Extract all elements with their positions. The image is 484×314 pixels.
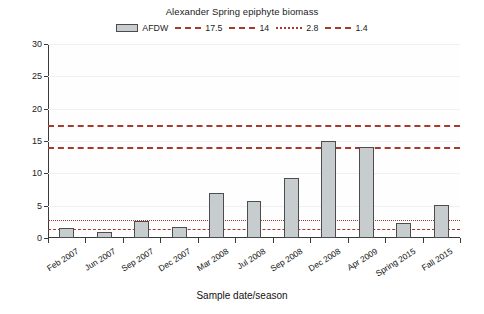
legend-line-swatch-dash-icon <box>229 27 255 29</box>
x-tick-mark <box>160 238 161 243</box>
legend-label-1-4: 1.4 <box>355 24 367 33</box>
bar <box>284 178 299 238</box>
bar <box>134 221 149 238</box>
x-tick-mark <box>273 238 274 243</box>
x-tick-mark <box>310 238 311 243</box>
x-tick-mark <box>348 238 349 243</box>
legend-line-swatch-dashdot-icon <box>175 27 201 29</box>
y-tick-mark <box>44 44 48 45</box>
x-tick-label: Dec 2007 <box>157 246 193 273</box>
legend-item-1-4[interactable]: 1.4 <box>325 24 367 33</box>
chart-figure: Alexander Spring epiphyte biomass AFDW 1… <box>0 0 484 314</box>
y-tick-label: 30 <box>1 39 42 49</box>
bar <box>359 147 374 238</box>
x-tick-label: Jul 2008 <box>235 246 267 271</box>
x-tick-label: Sep 2007 <box>119 246 155 273</box>
x-tick-label: Mar 2008 <box>195 246 230 273</box>
legend-item-14[interactable]: 14 <box>229 24 269 33</box>
legend-item-afdw[interactable]: AFDW <box>116 24 168 33</box>
y-tick-mark <box>44 206 48 207</box>
x-tick-mark <box>423 238 424 243</box>
y-tick-label: 20 <box>1 104 42 114</box>
y-tick-mark <box>44 141 48 142</box>
bar <box>59 228 74 238</box>
y-tick-label: 10 <box>1 168 42 178</box>
legend-line-swatch-dash2-icon <box>325 27 351 29</box>
y-tick-label: 0 <box>1 233 42 243</box>
x-tick-mark <box>385 238 386 243</box>
bar <box>172 227 187 238</box>
y-tick-label: 15 <box>1 136 42 146</box>
plot-area <box>48 44 460 238</box>
y-tick-label: 5 <box>1 201 42 211</box>
x-tick-label: Feb 2007 <box>45 246 80 273</box>
x-tick-mark <box>85 238 86 243</box>
x-tick-label: Spring 2015 <box>374 246 418 278</box>
x-tick-label: Fall 2015 <box>420 246 455 273</box>
legend-label-14: 14 <box>259 24 269 33</box>
bar <box>396 223 411 238</box>
x-axis-ticks <box>48 238 460 244</box>
y-tick-mark <box>44 76 48 77</box>
bar <box>209 193 224 238</box>
legend-label-afdw: AFDW <box>142 24 168 33</box>
x-tick-mark <box>48 238 49 243</box>
legend-item-2-8[interactable]: 2.8 <box>276 24 318 33</box>
x-tick-mark <box>460 238 461 243</box>
x-tick-mark <box>123 238 124 243</box>
y-tick-mark <box>44 109 48 110</box>
chart-title: Alexander Spring epiphyte biomass <box>0 6 484 17</box>
legend-item-17-5[interactable]: 17.5 <box>175 24 222 33</box>
y-tick-label: 25 <box>1 71 42 81</box>
y-tick-mark <box>44 173 48 174</box>
x-tick-label: Sep 2008 <box>269 246 305 273</box>
bar <box>321 141 336 238</box>
legend-label-17-5: 17.5 <box>205 24 222 33</box>
bar-series-afdw <box>48 44 460 238</box>
legend-line-swatch-dot-icon <box>276 27 302 29</box>
x-tick-mark <box>198 238 199 243</box>
bar <box>247 201 262 238</box>
x-axis-title: Sample date/season <box>0 290 484 301</box>
x-tick-label: Dec 2008 <box>306 246 342 273</box>
x-tick-mark <box>235 238 236 243</box>
legend-bar-swatch-icon <box>116 24 138 32</box>
chart-legend: AFDW 17.5 14 2.8 1.4 <box>0 24 484 33</box>
x-tick-label: Jun 2007 <box>83 246 118 273</box>
bar <box>434 205 449 238</box>
legend-label-2-8: 2.8 <box>306 24 318 33</box>
